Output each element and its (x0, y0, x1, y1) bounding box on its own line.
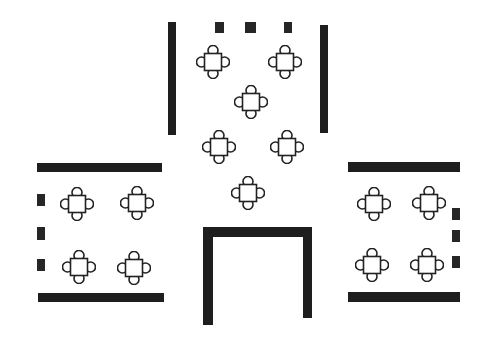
table-1 (196, 45, 230, 79)
table-with-chairs-icon (117, 251, 151, 285)
top-block-3 (284, 22, 292, 33)
table-with-chairs-icon (231, 176, 265, 210)
bottom-u-top (203, 227, 312, 237)
table-6 (231, 176, 265, 210)
left-block-3 (37, 259, 45, 271)
table-11 (357, 187, 391, 221)
table-4 (202, 130, 236, 164)
left-bottom-wall (38, 293, 164, 302)
table-with-chairs-icon (270, 130, 304, 164)
table-with-chairs-icon (357, 187, 391, 221)
table-with-chairs-icon (355, 248, 389, 282)
right-bottom-wall (348, 292, 460, 302)
bottom-u-right (303, 227, 312, 318)
table-with-chairs-icon (412, 186, 446, 220)
table-with-chairs-icon (120, 186, 154, 220)
left-top-wall (37, 163, 162, 172)
top-block-1 (215, 22, 224, 33)
bottom-u-left (203, 227, 213, 325)
top-right-wall (320, 25, 328, 133)
table-with-chairs-icon (234, 85, 268, 119)
table-2 (268, 45, 302, 79)
left-block-1 (37, 194, 45, 206)
table-10 (117, 251, 151, 285)
floor-plan (0, 0, 484, 341)
right-block-3 (452, 256, 460, 268)
table-5 (270, 130, 304, 164)
table-with-chairs-icon (196, 45, 230, 79)
table-with-chairs-icon (202, 130, 236, 164)
table-3 (234, 85, 268, 119)
table-12 (412, 186, 446, 220)
right-block-2 (452, 230, 460, 242)
table-7 (60, 187, 94, 221)
top-block-2 (245, 22, 256, 33)
table-9 (62, 250, 96, 284)
left-block-2 (37, 227, 45, 240)
table-13 (355, 248, 389, 282)
table-with-chairs-icon (62, 250, 96, 284)
table-with-chairs-icon (60, 187, 94, 221)
table-with-chairs-icon (410, 248, 444, 282)
right-top-wall (348, 162, 460, 172)
table-with-chairs-icon (268, 45, 302, 79)
right-block-1 (452, 208, 460, 220)
top-left-wall (168, 22, 176, 135)
table-14 (410, 248, 444, 282)
table-8 (120, 186, 154, 220)
